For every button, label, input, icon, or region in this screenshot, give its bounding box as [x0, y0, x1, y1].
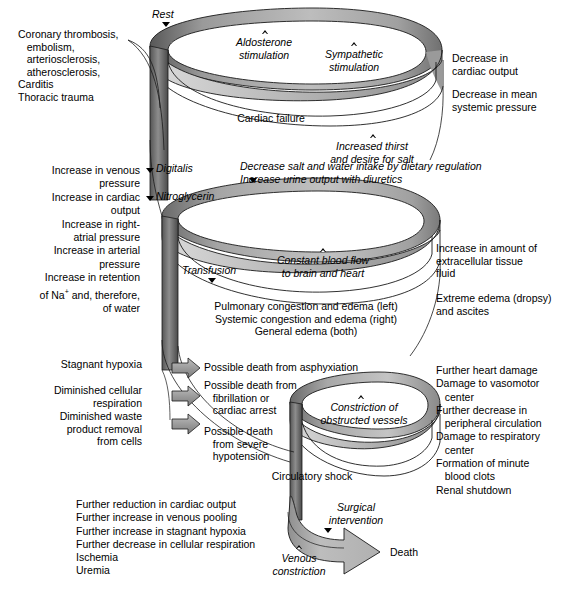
aldosterone-stimulation-label: Aldosterone stimulation [216, 36, 312, 61]
sympathetic-stimulation-label: Sympathetic stimulation [306, 48, 402, 73]
extracellular-fluid-label: Increase in amount of extracellular tiss… [436, 242, 537, 280]
diminished-cellular-respiration-label: Diminished cellular respiration [10, 384, 142, 409]
stagnant-hypoxia-label: Stagnant hypoxia [10, 358, 142, 371]
aldosterone-marker [262, 30, 268, 34]
transfusion-marker [208, 278, 216, 283]
cardiac-failure-spiral-diagram: Coronary thrombosis, embolism, arteriosc… [0, 0, 565, 596]
venous-constriction-label: Venous constriction [256, 552, 342, 577]
decrease-cardiac-output-label: Decrease in cardiac output [452, 52, 518, 77]
venous-constriction-marker [296, 545, 302, 549]
possible-death-asphyxiation-label: Possible death from asphyxiation [204, 361, 358, 374]
congestion-edema-label: Pulmonary congestion and edema (left) Sy… [180, 300, 432, 338]
rest-label: Rest [152, 8, 174, 21]
constant-blood-flow-marker [320, 248, 326, 252]
decrease-mean-systemic-pressure-label: Decrease in mean systemic pressure [452, 88, 537, 113]
damage-list: Further heart damage Damage to vasomotor… [436, 364, 542, 497]
circulatory-shock-label: Circulatory shock [242, 470, 382, 483]
diminished-waste-removal-label: Diminished waste product removal from ce… [10, 410, 142, 448]
constriction-obstructed-vessels-label: Constriction of obstructed vessels [303, 401, 425, 426]
possible-death-hypotension-label: Possible death from severe hypotension [204, 425, 273, 463]
digitalis-marker [146, 168, 154, 173]
possible-death-fibrillation-label: Possible death from fibrillation or card… [204, 379, 297, 417]
constant-blood-flow-label: Constant blood flow to brain and heart [256, 254, 390, 279]
nitroglycerin-label: Nitroglycerin [156, 190, 214, 203]
digitalis-label: Digitalis [156, 162, 193, 175]
rest-marker [162, 22, 170, 27]
compensation-list: Increase in venous pressure Increase in … [0, 164, 140, 315]
decompensation-list: Further reduction in cardiac output Furt… [76, 498, 255, 578]
surgical-intervention-marker [324, 528, 332, 533]
surgical-intervention-label: Surgical intervention [312, 501, 400, 526]
nitroglycerin-marker [146, 196, 154, 201]
causes-list: Coronary thrombosis, embolism, arteriosc… [18, 28, 153, 104]
death-label: Death [390, 546, 418, 559]
increased-thirst-marker [370, 134, 376, 138]
transfusion-label: Transfusion [182, 264, 236, 277]
sympathetic-marker [351, 42, 357, 46]
cardiac-failure-label: Cardiac failure [206, 112, 336, 125]
dietary-regulation-label: Decrease salt and water intake by dietar… [240, 160, 482, 185]
extreme-edema-label: Extreme edema (dropsy) and ascites [436, 292, 552, 317]
constriction-obstructed-vessels-marker [358, 395, 364, 399]
